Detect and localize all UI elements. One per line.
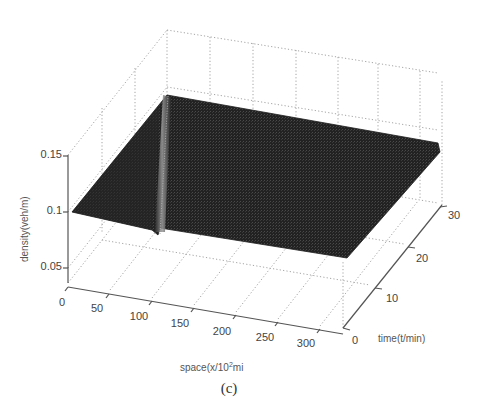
y-tick-label: 30	[448, 209, 460, 221]
plot-canvas: 0.150.10.05 050100150200250300 0102030 d…	[0, 0, 478, 419]
x-tick-label: 250	[256, 331, 274, 343]
z-tick-label: 0.05	[41, 260, 62, 272]
z-axis-label: density(veh/m)	[19, 196, 30, 262]
time-axis-label: time(t/min)	[378, 333, 425, 344]
y-tick-label: 10	[386, 292, 398, 304]
density-surface	[72, 95, 440, 258]
z-axis	[63, 155, 68, 283]
y-tick-label: 0	[352, 334, 358, 346]
space-axis-label-unit: mi	[233, 362, 244, 373]
figure-caption: (c)	[221, 380, 238, 397]
surface-left-strip	[72, 104, 160, 230]
x-tick-label: 200	[213, 325, 231, 337]
surface-plot-figure: 0.150.10.05 050100150200250300 0102030 d…	[0, 0, 478, 419]
space-axis-label-main: space(x/10	[180, 362, 229, 373]
x-tick-label: 100	[130, 310, 148, 322]
z-tick-label: 0.15	[41, 148, 62, 160]
x-tick-label: 50	[91, 302, 103, 314]
y-tick-label: 20	[416, 252, 428, 264]
x-tick-label: 0	[59, 296, 65, 308]
x-tick-label: 300	[297, 337, 315, 349]
z-tick-label: 0.1	[47, 204, 62, 216]
x-tick-label: 150	[171, 317, 189, 329]
space-axis-label: space(x/102mi	[180, 361, 243, 373]
z-tick-labels: 0.150.10.05	[41, 148, 62, 272]
space-axis	[65, 287, 343, 334]
